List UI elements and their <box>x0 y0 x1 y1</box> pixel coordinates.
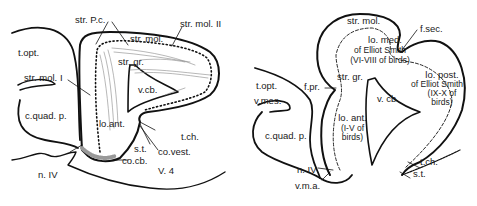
label-str-pc: str. P.c. <box>75 15 105 25</box>
label-lo-ant: lo.ant. <box>99 119 125 129</box>
left-leader-lines <box>68 22 182 160</box>
label-lo-med-birds: (VI-VIII of birds) <box>325 56 435 65</box>
label-t-opt: t.opt. <box>18 48 39 58</box>
label-lo-med: lo. med. <box>340 35 430 45</box>
label-str-mol: str. mol. <box>130 34 163 44</box>
label-str-mol-i: str. mol. I <box>24 73 63 83</box>
label-t-opt-right: t.opt. <box>256 81 277 91</box>
label-v-m-a: v.m.a. <box>295 181 320 191</box>
label-v-cb: v.cb. <box>138 85 157 95</box>
label-co-vest: co.vest. <box>158 147 191 157</box>
label-t-ch: t.ch. <box>181 132 199 142</box>
label-f-sec: f.sec. <box>420 24 443 34</box>
label-lo-post-birds-2: birds) <box>412 98 472 107</box>
label-str-mol-right: str. mol. <box>347 16 380 26</box>
left-tectum-outline <box>12 28 80 140</box>
cerebellum-diagram-figure: str. P.c. str. mol. II str. mol. t.opt. … <box>0 0 477 206</box>
label-v-cb-right: v. cb. <box>377 94 399 104</box>
label-s-t-right: s.t. <box>413 169 426 179</box>
label-co-cb: co.cb. <box>122 156 147 166</box>
label-v-mes: v.mes. <box>254 96 281 106</box>
label-c-quad-p-right: c.quad. p. <box>265 131 307 141</box>
left-cquad-outline <box>18 100 78 148</box>
label-specimen-v4: V. 4 <box>158 166 174 176</box>
label-str-gr: str. gr. <box>118 57 144 67</box>
label-str-gr-right: str. gr. <box>337 72 363 82</box>
diagram-drawing <box>0 0 477 206</box>
label-lo-ant-birds-2: birds) <box>330 133 375 142</box>
label-lo-med-author: of Elliot Smith <box>325 46 435 55</box>
label-str-mol-ii: str. mol. II <box>180 19 221 29</box>
label-f-pr: f.pr. <box>304 82 320 92</box>
label-n-iv-right: n. IV <box>297 165 317 175</box>
label-t-ch-right: t.ch. <box>420 157 438 167</box>
label-lo-ant-right: lo. ant. <box>330 113 375 123</box>
label-n-iv: n. IV <box>38 170 58 180</box>
label-s-t: s.t. <box>134 144 147 154</box>
left-cocb-stipple <box>82 148 115 158</box>
label-c-quad-p: c.quad. p. <box>25 111 67 121</box>
